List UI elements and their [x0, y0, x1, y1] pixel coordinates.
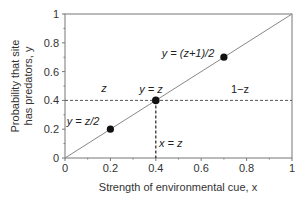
y-axis-label-line1: Probability that site: [9, 40, 21, 133]
chart: 0 0.2 0.4 0.6 0.8 1 0 0.2 0.4 0.6 0.8 1 …: [0, 0, 306, 198]
y-tick-label: 0.4: [44, 94, 59, 106]
annotation-y-eq-z: y = z: [138, 83, 163, 95]
x-tick-label: 0: [62, 162, 68, 174]
x-tick-label: 0.4: [148, 162, 163, 174]
x-tick-label: 1: [289, 162, 295, 174]
point-z-half: [107, 126, 114, 133]
y-tick-label: 0.8: [44, 37, 59, 49]
annotation-1-minus-z: 1−z: [231, 83, 249, 95]
x-tick-labels: 0 0.2 0.4 0.6 0.8 1: [62, 162, 295, 174]
annotation-y-eq-z-half: y = z/2: [66, 115, 100, 127]
x-tick-label: 0.2: [103, 162, 118, 174]
x-axis-label: Strength of environmental cue, x: [99, 181, 258, 193]
x-tick-label: 0.8: [239, 162, 254, 174]
point-z-plus-1-half: [220, 54, 227, 61]
annotation-y-eq-z-plus-1-half: y = (z+1)/2: [161, 47, 215, 59]
y-tick-label: 0: [53, 152, 59, 164]
y-tick-labels: 0 0.2 0.4 0.6 0.8 1: [44, 8, 59, 164]
y-axis-label-line2: has predators, y: [22, 46, 34, 125]
y-tick-label: 0.2: [44, 123, 59, 135]
y-tick-label: 0.6: [44, 66, 59, 78]
annotation-z: z: [100, 82, 107, 94]
x-tick-label: 0.6: [194, 162, 209, 174]
annotation-x-eq-z: x = z: [158, 137, 183, 149]
y-tick-label: 1: [53, 8, 59, 20]
point-z: [152, 97, 160, 105]
